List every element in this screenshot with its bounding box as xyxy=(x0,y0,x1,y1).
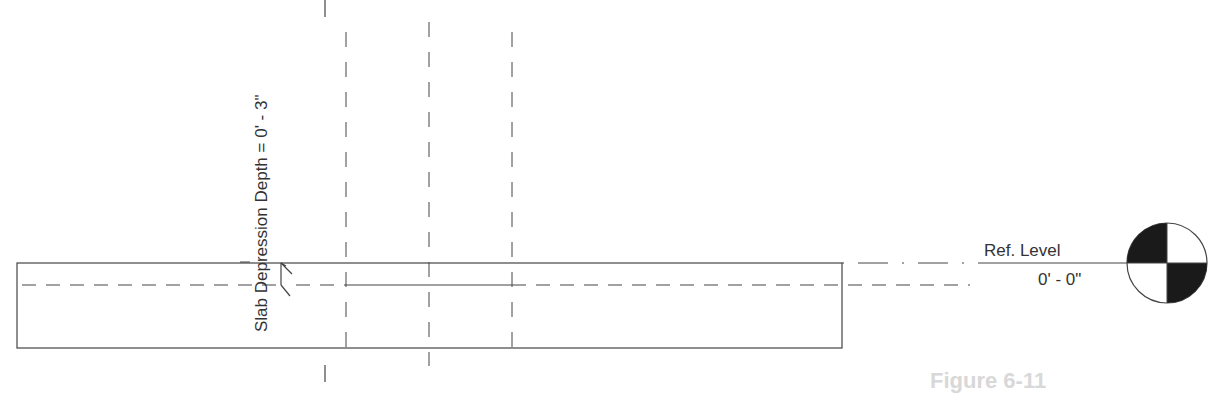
level-head-icon[interactable] xyxy=(1127,223,1207,303)
depression-depth-marker xyxy=(281,263,292,296)
figure-caption: Figure 6-11 xyxy=(930,368,1046,394)
level-name[interactable]: Ref. Level xyxy=(984,241,1061,260)
level-elevation: 0' - 0" xyxy=(1038,270,1081,289)
slab-depression-label[interactable]: Slab Depression Depth = 0' - 3" xyxy=(252,95,271,333)
